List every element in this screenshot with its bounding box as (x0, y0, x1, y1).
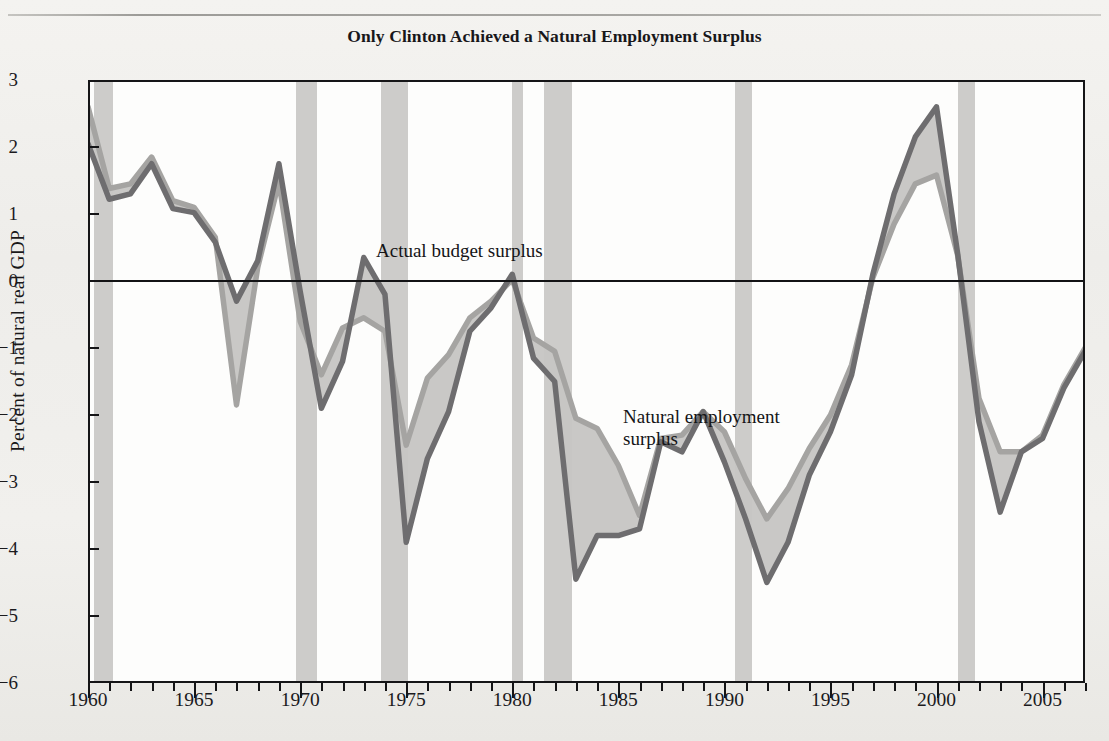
y-tick-label: −5 (0, 605, 18, 627)
x-tick-minor (427, 683, 429, 691)
x-tick-label: 1985 (599, 689, 638, 711)
page-title: Only Clinton Achieved a Natural Employme… (0, 26, 1109, 47)
actual-budget-surplus-label: Actual budget surplus (376, 240, 543, 262)
y-tick-label: 0 (0, 270, 18, 292)
x-tick-minor (979, 683, 981, 691)
x-tick-label: 1980 (493, 689, 532, 711)
x-tick-label: 1970 (281, 689, 320, 711)
figure-container: Only Clinton Achieved a Natural Employme… (0, 0, 1109, 741)
y-tick-label: 2 (0, 136, 18, 158)
y-tick-mark (88, 146, 99, 148)
x-tick-minor (852, 683, 854, 691)
x-tick-minor (343, 683, 345, 691)
y-tick-label: −1 (0, 337, 18, 359)
y-tick-label: −3 (0, 471, 18, 493)
y-tick-label: 3 (0, 69, 18, 91)
x-tick-minor (236, 683, 238, 691)
x-tick-minor (958, 683, 960, 691)
plot-area: Actual budget surplus Natural employment… (88, 80, 1085, 683)
x-tick-minor (152, 683, 154, 691)
series-layer (88, 80, 1085, 683)
page-top-rule (8, 14, 1101, 16)
x-tick-label: 2000 (917, 689, 956, 711)
x-tick-minor (576, 683, 578, 691)
x-tick-minor (215, 683, 217, 691)
x-tick-label: 1995 (811, 689, 850, 711)
x-tick-label: 1975 (387, 689, 426, 711)
natural-employment-surplus-label: Natural employment surplus (623, 406, 780, 451)
x-tick-minor (364, 683, 366, 691)
x-tick-minor (894, 683, 896, 691)
x-tick-minor (449, 683, 451, 691)
y-tick-mark (88, 414, 99, 416)
x-tick-minor (258, 683, 260, 691)
x-tick-minor (640, 683, 642, 691)
x-tick-minor (1000, 683, 1002, 691)
y-tick-label: −6 (0, 672, 18, 694)
y-tick-label: 1 (0, 203, 18, 225)
x-tick-label: 1960 (69, 689, 108, 711)
x-tick-minor (788, 683, 790, 691)
x-tick-minor (470, 683, 472, 691)
x-tick-minor (873, 683, 875, 691)
x-tick-minor (109, 683, 111, 691)
y-tick-mark (88, 481, 99, 483)
y-tick-mark (88, 280, 99, 282)
x-tick-minor (321, 683, 323, 691)
y-tick-mark (88, 548, 99, 550)
x-tick-minor (682, 683, 684, 691)
x-tick-minor (746, 683, 748, 691)
zero-reference-line (88, 280, 1085, 282)
x-tick-minor (661, 683, 663, 691)
x-tick-label: 1965 (175, 689, 214, 711)
y-tick-label: −4 (0, 538, 18, 560)
x-tick-label: 2005 (1023, 689, 1062, 711)
x-tick-minor (555, 683, 557, 691)
x-tick-minor (1085, 683, 1087, 691)
x-tick-label: 1990 (705, 689, 744, 711)
y-tick-mark (88, 615, 99, 617)
x-tick-minor (767, 683, 769, 691)
x-tick-minor (130, 683, 132, 691)
x-tick-minor (533, 683, 535, 691)
y-tick-mark (88, 347, 99, 349)
y-tick-mark (88, 213, 99, 215)
y-tick-label: −2 (0, 404, 18, 426)
x-tick-minor (1064, 683, 1066, 691)
